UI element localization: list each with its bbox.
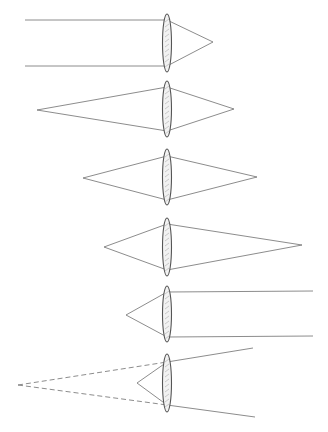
ray-diagram-object-inside-focus-virtual-image [18, 348, 255, 417]
convex-lens-icon [163, 354, 172, 412]
convex-lens-icon [163, 218, 172, 276]
light-ray [126, 315, 313, 337]
diagram-canvas [0, 0, 328, 432]
convex-lens-icon [163, 14, 172, 72]
light-ray [37, 87, 234, 110]
light-ray [37, 109, 234, 131]
ray-diagram-object-at-focus-parallel-out [126, 286, 313, 342]
lens-ray-diagrams-figure [0, 0, 328, 432]
virtual-ray-extension [18, 385, 167, 405]
light-ray [126, 291, 313, 315]
convex-lens-icon [163, 81, 172, 137]
virtual-ray-extension [18, 362, 167, 385]
ray-diagram-far-object-real-image [37, 81, 234, 137]
ray-diagram-near-object-far-image [104, 218, 302, 276]
ray-diagram-parallel-in-focus-out [25, 14, 213, 72]
light-ray [137, 383, 255, 417]
light-ray [25, 42, 213, 66]
convex-lens-icon [163, 149, 172, 205]
light-ray [25, 20, 213, 42]
ray-diagram-object-at-2f-image-at-2f [83, 149, 257, 205]
convex-lens-icon [163, 286, 172, 342]
light-ray [104, 245, 302, 270]
light-ray [104, 224, 302, 247]
light-ray [137, 348, 253, 383]
